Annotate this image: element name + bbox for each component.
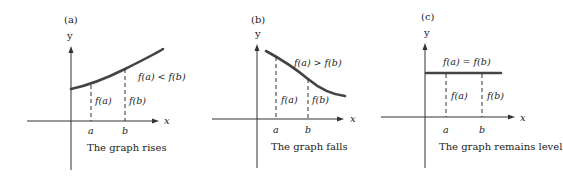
panel-b-caption: The graph falls [271,141,348,152]
panel-b-fb-label: f(b) [311,94,329,105]
panel-c-fb-label: f(b) [486,90,504,101]
function-behavior-diagram: (a) y x f(a) f(b) f(a) < f(b) a b The gr… [0,0,563,180]
panel-a: (a) y x f(a) f(b) f(a) < f(b) a b The gr… [27,14,186,170]
panel-a-fb-label: f(b) [128,95,146,106]
panel-c-caption: The graph remains level [439,141,562,152]
panel-b-fa-label: f(a) [280,94,298,105]
panel-a-y-arrow-icon [69,46,74,53]
panel-b-tick-b: b [305,124,311,135]
panel-a-tick-a: a [88,125,94,136]
panel-a-x-arrow-icon [152,119,159,124]
panel-c-x-arrow-icon [508,115,515,120]
panel-c-tick-a: a [443,124,449,135]
panel-a-y-axis-label: y [66,30,73,41]
panel-c-relation: f(a) = f(b) [442,56,491,67]
panel-c-x-axis-label: x [520,112,526,123]
panel-b-relation: f(a) > f(b) [293,57,342,68]
panel-c-tag: (c) [421,11,435,22]
panel-b-y-axis-label: y [254,28,261,39]
panel-a-x-axis-label: x [164,115,170,126]
panel-c-fa-label: f(a) [450,90,468,101]
panel-c-y-axis-label: y [423,27,430,38]
panel-a-tag: (a) [64,14,78,25]
panel-b-x-axis-label: x [350,113,356,124]
panel-c-tick-b: b [479,124,485,135]
panel-c-y-arrow-icon [423,43,428,50]
panel-b-x-arrow-icon [337,117,344,122]
panel-a-tick-b: b [122,125,128,136]
panel-a-fa-label: f(a) [94,95,112,106]
panel-b-tag: (b) [251,14,265,25]
panel-c: (c) y x f(a) f(b) f(a) = f(b) a b The gr… [381,11,562,168]
panel-a-curve [71,49,163,89]
panel-a-caption: The graph rises [87,142,167,153]
panel-a-relation: f(a) < f(b) [137,71,186,82]
panel-b-y-arrow-icon [255,44,260,51]
panel-b: (b) y x f(a) f(b) f(a) > f(b) a b The gr… [212,14,356,168]
panel-b-tick-a: a [273,124,279,135]
